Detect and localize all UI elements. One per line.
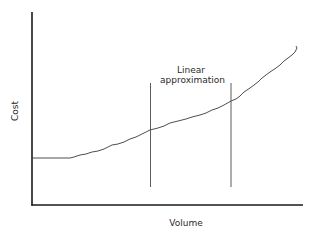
annotation-line-1: Linear [160,65,222,75]
cost-curve [32,46,297,158]
y-axis-label: Cost [10,98,20,124]
x-axis-label: Volume [165,218,207,228]
linear-approximation-label: Linear approximation [160,65,222,85]
chart-canvas [0,0,309,236]
annotation-line-2: approximation [160,75,222,85]
